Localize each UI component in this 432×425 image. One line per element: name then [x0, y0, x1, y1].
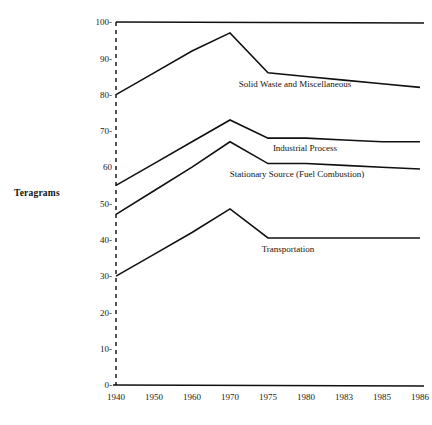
x-axis-line — [113, 385, 424, 386]
y-axis-tick-label: 20- — [100, 308, 112, 318]
x-axis-tick-label: 1940 — [107, 392, 126, 402]
y-axis-tick-label: 100- — [96, 17, 113, 27]
y-axis-title: Teragrams — [14, 188, 60, 198]
x-axis-tick-label: 1970 — [221, 392, 240, 402]
y-axis-tick-label: 90- — [100, 54, 112, 64]
y-axis-tick-label: 70- — [100, 126, 112, 136]
series-label-0: Solid Waste and Miscellaneous — [239, 79, 352, 89]
series-label-1: Industrial Process — [273, 143, 338, 153]
y-axis-tick-labels: 100-90-80-70-6050-40-30-20-10-0- — [96, 17, 113, 390]
y-axis-tick-label: 60 — [103, 162, 113, 172]
x-axis-tick-label: 1950 — [145, 392, 164, 402]
y-axis-tick-label: 40- — [100, 235, 112, 245]
y-axis-tick-label: 10- — [100, 344, 112, 354]
emissions-line-chart: Teragrams 100-90-80-70-6050-40-30-20-10-… — [0, 0, 432, 425]
x-axis-tick-label: 1960 — [183, 392, 202, 402]
y-axis-tick-label: 80- — [100, 90, 112, 100]
series-lines-group — [116, 33, 420, 276]
x-axis-tick-label: 1986 — [411, 392, 430, 402]
chart-top-border — [116, 22, 424, 23]
x-axis-tick-label: 1983 — [335, 392, 354, 402]
series-label-3: Transportation — [262, 244, 315, 254]
x-axis-tick-label: 1975 — [259, 392, 278, 402]
x-axis-tick-label: 1980 — [297, 392, 316, 402]
series-line-3 — [116, 209, 420, 276]
series-inline-labels-group: Solid Waste and MiscellaneousIndustrial … — [230, 79, 365, 254]
chart-container: Teragrams 100-90-80-70-6050-40-30-20-10-… — [0, 0, 432, 425]
x-axis-tick-labels: 194019501960197019751980198319851986 — [107, 392, 430, 402]
series-label-2: Stationary Source (Fuel Combustion) — [230, 169, 365, 179]
x-axis-tick-label: 1985 — [373, 392, 392, 402]
y-axis-tick-label: 50- — [100, 199, 112, 209]
y-axis-tick-label: 30- — [100, 271, 112, 281]
y-axis-tick-label: 0- — [105, 380, 113, 390]
